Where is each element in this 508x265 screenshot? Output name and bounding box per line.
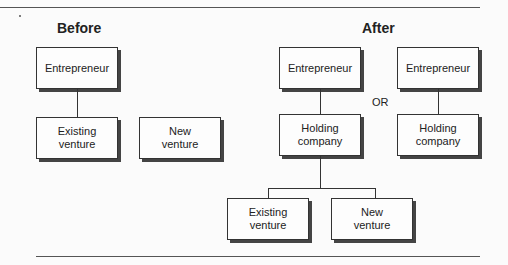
or-label: OR — [372, 96, 389, 108]
bottom-rule — [36, 256, 480, 257]
after-connector-2 — [438, 89, 439, 114]
before-entrepreneur-box: Entrepreneur — [36, 47, 118, 89]
after-entrepreneur-box-2: Entrepreneur — [397, 47, 479, 89]
after-connector-1 — [320, 89, 321, 114]
branch-left-drop — [268, 188, 269, 198]
before-existing-venture-box: Existing venture — [36, 117, 118, 159]
after-entrepreneur-box-1: Entrepreneur — [279, 47, 361, 89]
branch-connector — [268, 188, 376, 189]
holding-company-box-1: Holding company — [279, 114, 361, 156]
before-heading: Before — [57, 20, 101, 36]
stray-dot — [19, 15, 21, 17]
before-new-venture-box: New venture — [139, 117, 221, 159]
holding-to-branch-connector — [320, 156, 321, 188]
after-heading: After — [362, 20, 395, 36]
after-existing-venture-box: Existing venture — [227, 198, 309, 240]
before-connector — [77, 89, 78, 117]
after-new-venture-box: New venture — [331, 198, 413, 240]
branch-right-drop — [375, 188, 376, 198]
holding-company-box-2: Holding company — [397, 114, 479, 156]
top-rule — [0, 7, 480, 8]
